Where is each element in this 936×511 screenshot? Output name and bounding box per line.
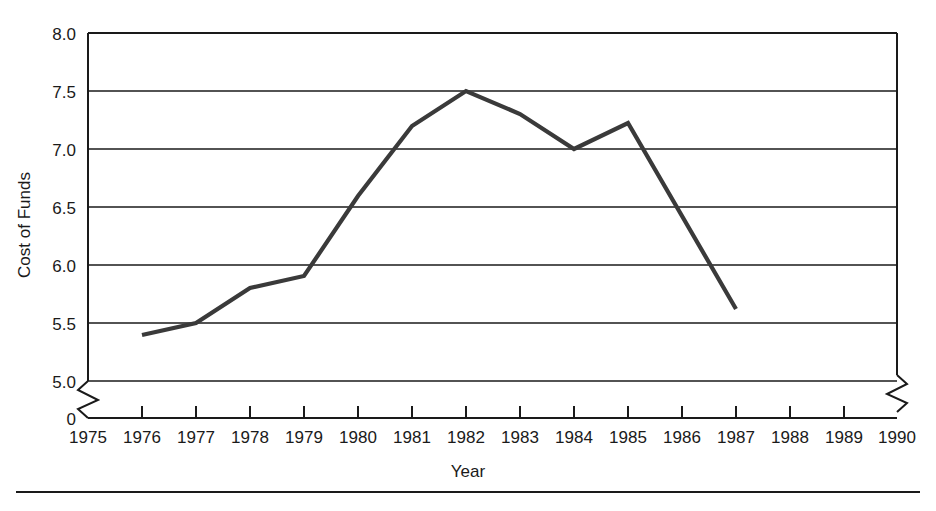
x-tick-label-1978: 1978 [231, 428, 269, 447]
y-tick-label-6.0: 6.0 [52, 257, 76, 276]
y-tick-label-6.5: 6.5 [52, 199, 76, 218]
y-tick-label-0: 0 [67, 410, 76, 429]
x-tick-label-1985: 1985 [609, 428, 647, 447]
y-tick-label-8.0: 8.0 [52, 25, 76, 44]
x-tick-label-1987: 1987 [717, 428, 755, 447]
x-tick-label-1982: 1982 [447, 428, 485, 447]
y-tick-label-7.0: 7.0 [52, 141, 76, 160]
x-tick-label-1986: 1986 [663, 428, 701, 447]
x-tick-label-1989: 1989 [825, 428, 863, 447]
x-tick-label-1975: 1975 [69, 428, 107, 447]
y-tick-label-5.0: 5.0 [52, 373, 76, 392]
x-tick-label-1977: 1977 [177, 428, 215, 447]
x-tick-label-1980: 1980 [339, 428, 377, 447]
x-tick-label-1981: 1981 [393, 428, 431, 447]
x-axis-title: Year [451, 462, 486, 481]
y-tick-label-7.5: 7.5 [52, 83, 76, 102]
y-axis-title: Cost of Funds [15, 172, 34, 278]
x-tick-label-1979: 1979 [285, 428, 323, 447]
x-tick-label-1990: 1990 [878, 428, 916, 447]
line-chart-svg: 8.0 7.5 7.0 6.5 6.0 5.5 5.0 0 1975 1976 … [0, 0, 936, 511]
y-tick-label-5.5: 5.5 [52, 315, 76, 334]
x-tick-label-1984: 1984 [555, 428, 593, 447]
chart-figure: 8.0 7.5 7.0 6.5 6.0 5.5 5.0 0 1975 1976 … [0, 0, 936, 511]
x-tick-label-1983: 1983 [501, 428, 539, 447]
x-tick-label-1988: 1988 [771, 428, 809, 447]
x-tick-label-1976: 1976 [123, 428, 161, 447]
